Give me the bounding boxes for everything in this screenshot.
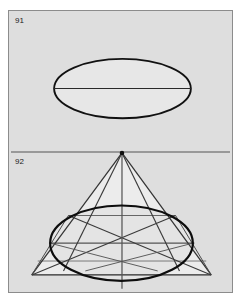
figure-92-group — [11, 151, 230, 289]
figure-91-group — [54, 59, 191, 118]
plate-page: 91 92 — [0, 0, 248, 305]
figure-panel: 91 92 — [8, 10, 233, 293]
figure-92-apex-point — [120, 151, 125, 156]
figures-svg — [9, 11, 232, 292]
figure-91-label: 91 — [15, 16, 24, 25]
figure-92-label: 92 — [15, 157, 24, 166]
